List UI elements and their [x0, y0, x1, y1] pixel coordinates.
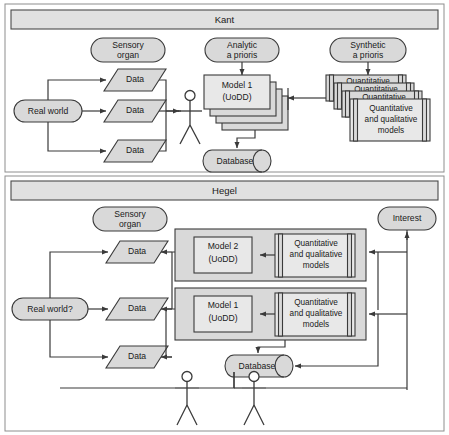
hegel-row-1-library-label-1: Quantitative — [294, 239, 338, 248]
kant-library-box-1-label-3: models — [378, 126, 404, 135]
hegel-row-1-library-bar-left — [279, 234, 283, 277]
hegel-row-2-library-bar-left — [279, 293, 283, 336]
hegel-data-label-3: Data — [128, 351, 146, 361]
hegel-row-1-library-bar-right — [348, 234, 352, 277]
kant-actor-head — [185, 91, 195, 101]
hegel-real-world-label: Real world? — [27, 304, 73, 314]
kant-library-box-1-bar-right — [423, 99, 427, 141]
hegel-database-label: Database — [239, 361, 276, 371]
hegel-row-2-library-bar-right — [348, 293, 352, 336]
kant-sensory-organ-label-1: Sensory — [112, 40, 144, 50]
kant-library-box-1-bar-left — [354, 99, 358, 141]
kant-synthetic-label-1: Synthetic — [350, 40, 386, 50]
hegel-model-2-label-1: Model 2 — [208, 241, 239, 251]
diagram-root: Kant Sensory organ Analytic a prioris Sy… — [0, 0, 449, 435]
hegel-row-1-library-label-2: and qualitative — [290, 250, 343, 259]
kant-library-box-1: Quantitative and qualitative models — [350, 99, 430, 141]
kant-real-world-label: Real world — [28, 106, 69, 116]
kant-model-front-label-2: (UoDD) — [222, 92, 251, 102]
kant-library-box-2-bar-left — [346, 91, 350, 117]
hegel-model-1-label-1: Model 1 — [208, 300, 239, 310]
hegel-sensory-organ-label-2: organ — [119, 219, 141, 229]
kant-data-label-1: Data — [126, 74, 144, 84]
hegel-row-2-library-label-2: and qualitative — [290, 309, 343, 318]
kant-data-label-2: Data — [126, 105, 144, 115]
kant-library-box-1-label-1: Quantitative — [369, 104, 413, 113]
kant-analytic-label-1: Analytic — [227, 40, 258, 50]
hegel-row-2-library-label-3: models — [303, 320, 329, 329]
kant-title: Kant — [215, 14, 235, 25]
hegel-row-2: Model 1 (UoDD) Quantitative and qualitat… — [175, 288, 366, 340]
kant-library-box-1-label-2: and qualitative — [365, 115, 418, 124]
kant-library-box-4-bar-left — [330, 75, 334, 101]
hegel-row-1: Model 2 (UoDD) Quantitative and qualitat… — [175, 229, 366, 281]
kant-database: Database — [203, 150, 271, 172]
kant-library-box-3-bar-left — [338, 83, 342, 109]
hegel-row-1-library-label-3: models — [303, 261, 329, 270]
hegel-data-label-1: Data — [128, 246, 146, 256]
kant-model-stack: (UoDD) (UoDD) (UoDD) Model 1 (UoDD) — [204, 75, 288, 130]
hegel-model-1-label-2: (UoDD) — [208, 313, 237, 323]
hegel-sensory-organ-label-1: Sensory — [114, 209, 146, 219]
kant-synthetic-label-2: a prioris — [353, 50, 384, 60]
kant-database-label: Database — [217, 156, 254, 166]
hegel-row-2-library-label-1: Quantitative — [294, 298, 338, 307]
hegel-interest-label: Interest — [393, 213, 422, 223]
kant-analytic-label-2: a prioris — [227, 50, 258, 60]
hegel-model-2-label-2: (UoDD) — [208, 254, 237, 264]
kant-data-label-3: Data — [126, 145, 144, 155]
hegel-database: Database — [225, 355, 293, 377]
kant-sensory-organ-label-2: organ — [117, 50, 139, 60]
hegel-actor-2-head — [249, 372, 259, 382]
hegel-data-label-2: Data — [128, 303, 146, 313]
hegel-actor-1-head — [182, 372, 192, 382]
kant-model-front-label-1: Model 1 — [222, 80, 253, 90]
epistemology-diagram: Kant Sensory organ Analytic a prioris Sy… — [0, 0, 449, 435]
hegel-title: Hegel — [212, 185, 237, 196]
